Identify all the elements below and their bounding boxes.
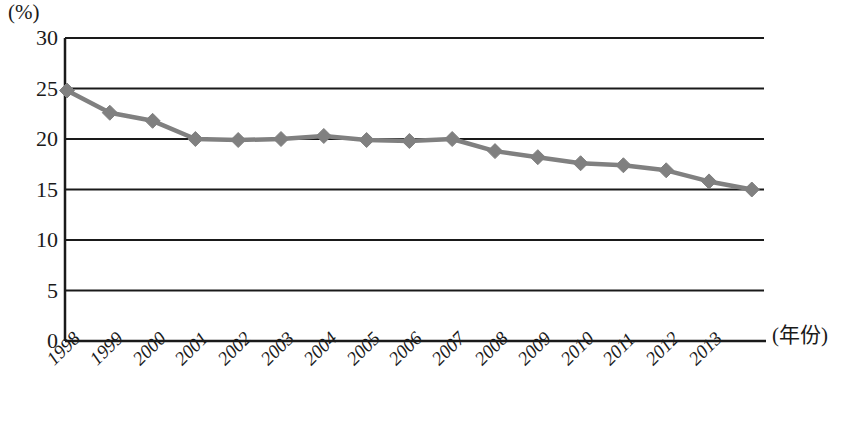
data-point-marker [231, 133, 246, 148]
data-point-marker [702, 174, 717, 189]
data-point-marker [274, 132, 289, 147]
data-point-marker [316, 128, 331, 143]
data-point-marker [402, 134, 417, 149]
data-point-marker [359, 133, 374, 148]
data-point-marker [530, 150, 545, 165]
data-point-marker [445, 132, 460, 147]
gridlines [65, 38, 764, 291]
line-chart: (%) (年份) 302520151050 199819992000200120… [0, 0, 846, 428]
data-point-marker [488, 144, 503, 159]
data-series-markers [60, 83, 760, 197]
data-point-marker [145, 113, 160, 128]
data-point-marker [188, 132, 203, 147]
data-point-marker [573, 156, 588, 171]
data-point-marker [616, 158, 631, 173]
plot-area [0, 0, 846, 428]
data-point-marker [744, 182, 759, 197]
data-point-marker [659, 163, 674, 178]
